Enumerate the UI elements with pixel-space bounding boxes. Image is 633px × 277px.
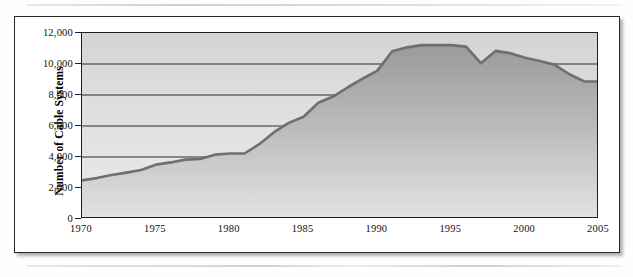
y-axis-tick-label: 2,000: [15, 182, 73, 193]
y-axis-tick-label: 6,000: [15, 120, 73, 131]
x-axis-labels: 19701975198019851990199520002005: [81, 223, 598, 243]
x-axis-tick-label: 1995: [439, 223, 461, 234]
plot-svg-layer: [82, 33, 597, 217]
x-axis-tick-label: 1990: [366, 223, 388, 234]
plot-area: [81, 32, 598, 218]
area-chart: Number of Cable Systems 02,0004,0006,000…: [15, 17, 619, 252]
area-fill: [82, 45, 598, 218]
x-axis-tick-label: 1975: [144, 223, 166, 234]
chart-page: Number of Cable Systems 02,0004,0006,000…: [0, 0, 633, 277]
x-axis-tick-label: 1980: [218, 223, 240, 234]
page-rule-bottom: [27, 265, 622, 267]
y-axis-tick-label: 4,000: [15, 151, 73, 162]
x-axis-tick-label: 2000: [513, 223, 535, 234]
series-area-path: [82, 33, 598, 218]
y-axis-tick-label: 10,000: [15, 58, 73, 69]
page-rule-top: [27, 4, 622, 6]
y-axis-tick-mark: [75, 218, 81, 219]
figure-box: Number of Cable Systems 02,0004,0006,000…: [14, 16, 620, 253]
x-axis-tick-label: 2005: [587, 223, 609, 234]
y-axis-tick-label: 8,000: [15, 89, 73, 100]
y-axis-labels: 02,0004,0006,0008,00010,00012,000: [15, 32, 77, 218]
x-axis-tick-label: 1970: [70, 223, 92, 234]
y-axis-tick-label: 0: [15, 213, 73, 224]
y-axis-tick-label: 12,000: [15, 27, 73, 38]
x-axis-tick-label: 1985: [292, 223, 314, 234]
